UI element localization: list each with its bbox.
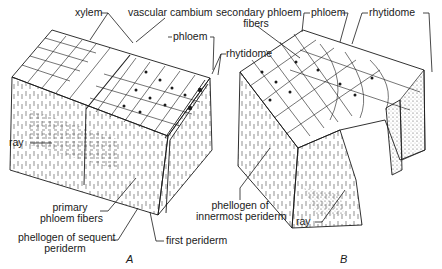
label-first-periderm: first periderm <box>166 235 227 246</box>
label-primary-phloem-fibers-line2: phloem fibers <box>40 213 100 224</box>
label-secondary-phloem-fibers-line2: fibers <box>216 18 296 29</box>
panel-caption-b: B <box>340 253 347 265</box>
block-a <box>10 30 212 215</box>
label-vascular-cambium: vascular cambium <box>128 7 213 18</box>
label-phellogen-innermost-periderm: phellogen of innermost periderm <box>196 200 284 222</box>
panel-caption-a: A <box>126 253 133 265</box>
label-ray-b: ray <box>296 216 311 227</box>
label-xylem: xylem <box>75 7 102 18</box>
label-rhytidome-a: rhytidome <box>226 48 272 59</box>
label-phellogen-sequent-line2: periderm <box>18 243 112 254</box>
label-rhytidome-b: rhytidome <box>369 7 415 18</box>
label-phloem-a: phloem <box>173 31 207 42</box>
bark-block-diagrams <box>0 0 442 269</box>
label-phellogen-sequent-periderm: phellogen of sequent periderm <box>18 232 112 254</box>
label-ray-a: ray <box>9 137 24 148</box>
label-secondary-phloem-fibers: secondary phloem fibers <box>216 7 296 29</box>
label-primary-phloem-fibers: primary phloem fibers <box>40 202 100 224</box>
label-phellogen-innermost-line2: innermost periderm <box>196 211 284 222</box>
label-phloem-b: phloem <box>311 7 345 18</box>
